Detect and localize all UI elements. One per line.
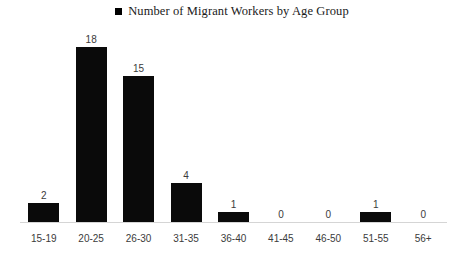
x-axis-line xyxy=(20,222,447,223)
bar-slot[interactable]: 2 xyxy=(20,24,67,222)
bar-slot[interactable]: 0 xyxy=(400,24,447,222)
bar-value-label: 4 xyxy=(162,170,209,181)
x-axis-tick-label: 26-30 xyxy=(115,232,162,250)
bar-slot[interactable]: 15 xyxy=(115,24,162,222)
bar-slot[interactable]: 18 xyxy=(67,24,114,222)
bar-value-label: 0 xyxy=(305,209,352,220)
x-axis-tick-label: 46-50 xyxy=(305,232,352,250)
bars-layer: 21815410010 xyxy=(20,24,447,222)
bar-slot[interactable]: 1 xyxy=(210,24,257,222)
bar-rect[interactable] xyxy=(360,212,391,222)
bar-slot[interactable]: 4 xyxy=(162,24,209,222)
x-axis-tick-labels: 15-1920-2526-3031-3536-4041-4546-5051-55… xyxy=(20,232,447,250)
x-axis-tick-label: 51-55 xyxy=(352,232,399,250)
bar-rect[interactable] xyxy=(171,183,202,222)
bar-slot[interactable]: 1 xyxy=(352,24,399,222)
bar-value-label: 15 xyxy=(115,63,162,74)
bar-value-label: 2 xyxy=(20,190,67,201)
x-axis-tick-label: 31-35 xyxy=(162,232,209,250)
chart-legend: Number of Migrant Workers by Age Group xyxy=(0,1,464,21)
bar-value-label: 18 xyxy=(67,34,114,45)
bar-value-label: 1 xyxy=(352,199,399,210)
bar-chart: Number of Migrant Workers by Age Group 2… xyxy=(0,0,464,265)
x-axis-tick-label: 41-45 xyxy=(257,232,304,250)
legend-square-icon xyxy=(115,8,122,15)
x-axis-tick-label: 20-25 xyxy=(67,232,114,250)
bar-slot[interactable]: 0 xyxy=(257,24,304,222)
x-axis-tick-label: 56+ xyxy=(400,232,447,250)
x-axis-tick-label: 36-40 xyxy=(210,232,257,250)
bar-rect[interactable] xyxy=(218,212,249,222)
bar-slot[interactable]: 0 xyxy=(305,24,352,222)
bar-rect[interactable] xyxy=(28,203,59,222)
bar-rect[interactable] xyxy=(123,76,154,222)
chart-title: Number of Migrant Workers by Age Group xyxy=(128,5,349,18)
x-axis-tick-label: 15-19 xyxy=(20,232,67,250)
bar-value-label: 0 xyxy=(257,209,304,220)
plot-area: 21815410010 xyxy=(20,24,447,223)
bar-value-label: 1 xyxy=(210,199,257,210)
bar-value-label: 0 xyxy=(400,209,447,220)
bar-rect[interactable] xyxy=(76,47,107,222)
